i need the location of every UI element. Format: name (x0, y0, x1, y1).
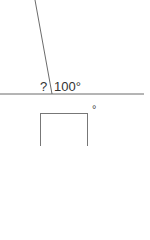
known-angle-label: 100° (54, 80, 81, 93)
answer-input-box[interactable] (40, 113, 88, 146)
unknown-angle-label: ? (40, 80, 47, 93)
degree-unit-label: ° (92, 104, 96, 115)
